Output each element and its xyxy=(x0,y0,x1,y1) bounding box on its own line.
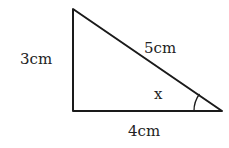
side-label-hypotenuse: 5cm xyxy=(144,39,176,57)
side-label-horizontal: 4cm xyxy=(128,122,160,140)
side-label-vertical: 3cm xyxy=(20,50,52,68)
angle-label: x xyxy=(154,85,163,103)
triangle-diagram: 3cm 5cm x 4cm xyxy=(0,0,229,148)
angle-arc xyxy=(194,94,200,111)
right-triangle xyxy=(73,9,222,111)
